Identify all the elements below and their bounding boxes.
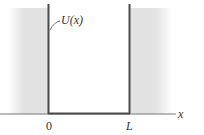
potential-well-diagram bbox=[0, 0, 204, 135]
x-axis-label: x bbox=[178, 108, 183, 120]
tick-label-L: L bbox=[126, 120, 133, 132]
label-leader-line bbox=[50, 21, 60, 30]
potential-label: U(x) bbox=[61, 14, 83, 26]
tick-label-zero: 0 bbox=[46, 120, 52, 132]
